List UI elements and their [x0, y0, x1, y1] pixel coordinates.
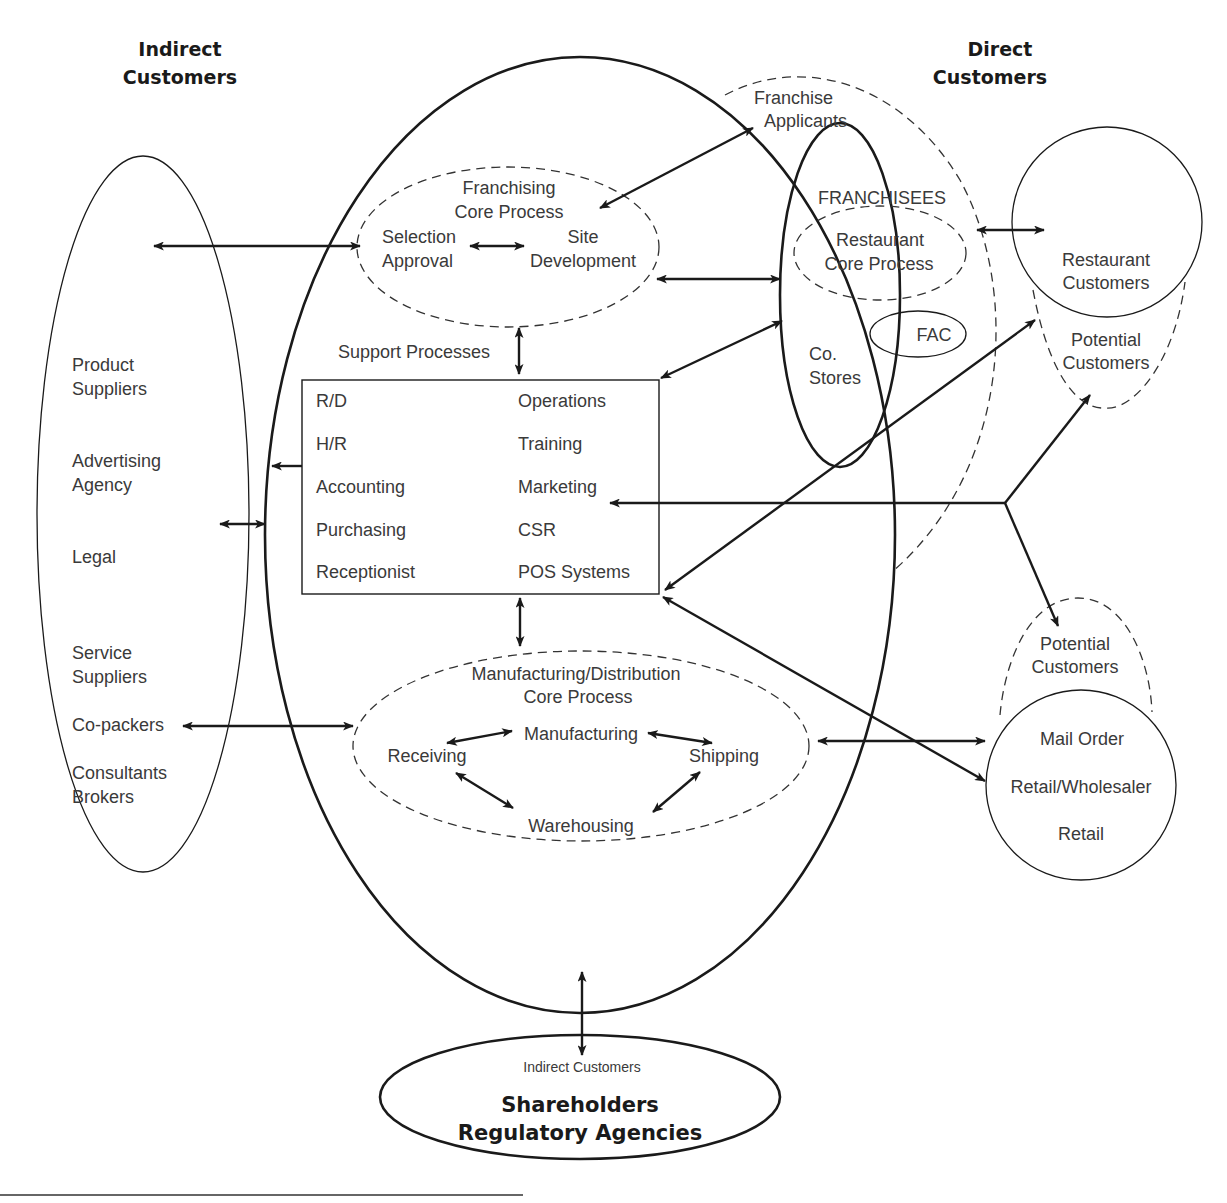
franchisees-ellipse: [780, 123, 900, 467]
header-indirect-customers-line2: Customers: [123, 66, 237, 88]
restaurant-customers-1: Restaurant: [1062, 250, 1150, 270]
retail-wholesaler: Retail/Wholesaler: [1010, 777, 1151, 797]
co-stores-1: Co.: [809, 344, 837, 364]
support-operations: Operations: [518, 391, 606, 411]
site-development-2: Development: [530, 251, 636, 271]
selection-approval-1: Selection: [382, 227, 456, 247]
arrow-support-franchisees: [661, 321, 782, 378]
arrow-receiving-warehousing: [456, 773, 513, 808]
selection-approval-2: Approval: [382, 251, 453, 271]
franchising-title-1: Franchising: [462, 178, 555, 198]
franchisees-title: FRANCHISEES: [818, 188, 946, 208]
franchise-applicants-boundary: [725, 77, 996, 572]
retail-potential-1: Potential: [1040, 634, 1110, 654]
support-purchasing: Purchasing: [316, 520, 406, 540]
restaurant-core-process-ellipse: [794, 206, 966, 300]
label-product-suppliers-1: Product: [72, 355, 134, 375]
co-stores-2: Stores: [809, 368, 861, 388]
support-csr: CSR: [518, 520, 556, 540]
restaurant-customers-2: Customers: [1062, 273, 1149, 293]
arrow-receiving-manufacturing: [447, 731, 512, 743]
support-accounting: Accounting: [316, 477, 405, 497]
franchising-title-2: Core Process: [454, 202, 563, 222]
header-direct-customers-line1: Direct: [968, 38, 1033, 60]
retail-mail-order: Mail Order: [1040, 729, 1124, 749]
support-marketing: Marketing: [518, 477, 597, 497]
node-warehousing: Warehousing: [528, 816, 633, 836]
shareholders-title-1: Shareholders: [501, 1093, 659, 1117]
support-training: Training: [518, 434, 582, 454]
label-product-suppliers-2: Suppliers: [72, 379, 147, 399]
label-advertising-agency-2: Agency: [72, 475, 132, 495]
arrow-shipping-warehousing: [653, 772, 700, 812]
support-hr: H/R: [316, 434, 347, 454]
arrow-manufacturing-shipping: [648, 733, 712, 743]
diagram-canvas: Indirect Customers Direct Customers: [0, 0, 1227, 1203]
label-consultants-brokers-1: Consultants: [72, 763, 167, 783]
node-receiving: Receiving: [387, 746, 466, 766]
label-service-suppliers-1: Service: [72, 643, 132, 663]
arrow-pos-restaurant-potential: [665, 320, 1035, 590]
label-advertising-agency-1: Advertising: [72, 451, 161, 471]
restaurant-potential-2: Customers: [1062, 353, 1149, 373]
franchise-applicants-1: Franchise: [754, 88, 833, 108]
support-processes-title: Support Processes: [338, 342, 490, 362]
shareholders-title-2: Regulatory Agencies: [458, 1121, 702, 1145]
node-manufacturing: Manufacturing: [524, 724, 638, 744]
retail-potential-2: Customers: [1031, 657, 1118, 677]
support-receptionist: Receptionist: [316, 562, 415, 582]
arrow-junction-to-restaurant-potential: [1005, 395, 1090, 503]
restaurant-potential-1: Potential: [1071, 330, 1141, 350]
support-pos-systems: POS Systems: [518, 562, 630, 582]
label-legal: Legal: [72, 547, 116, 567]
label-service-suppliers-2: Suppliers: [72, 667, 147, 687]
restaurant-core-2: Core Process: [824, 254, 933, 274]
arrow-franchising-applicants: [600, 128, 753, 208]
franchise-applicants-2: Applicants: [764, 111, 847, 131]
retail-retail: Retail: [1058, 824, 1104, 844]
label-consultants-brokers-2: Brokers: [72, 787, 134, 807]
support-rd: R/D: [316, 391, 347, 411]
site-development-1: Site: [567, 227, 598, 247]
header-indirect-customers-line1: Indirect: [138, 38, 221, 60]
manufacturing-title-2: Core Process: [523, 687, 632, 707]
label-co-packers: Co-packers: [72, 715, 164, 735]
node-shipping: Shipping: [689, 746, 759, 766]
restaurant-core-1: Restaurant: [836, 230, 924, 250]
arrow-junction-to-retail-potential: [1005, 503, 1058, 626]
header-direct-customers-line2: Customers: [933, 66, 1047, 88]
fac-label: FAC: [916, 325, 951, 345]
shareholders-sub: Indirect Customers: [523, 1059, 640, 1075]
manufacturing-title-1: Manufacturing/Distribution: [471, 664, 680, 684]
